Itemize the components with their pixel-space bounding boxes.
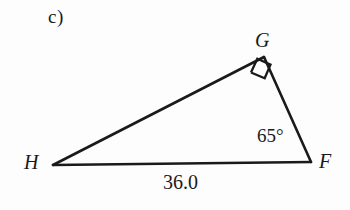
triangle-side-hg: [53, 57, 264, 165]
part-label: c): [48, 7, 64, 26]
geometry-figure: c) G H F 65° 36.0: [0, 0, 350, 210]
vertex-label-f: F: [319, 151, 331, 171]
side-length-label-hf: 36.0: [163, 172, 198, 192]
triangle-side-gf: [264, 57, 311, 162]
vertex-label-h: H: [24, 152, 38, 172]
angle-measure-label-f: 65°: [257, 126, 284, 145]
triangle-side-hf: [53, 162, 311, 165]
vertex-label-g: G: [255, 30, 269, 50]
